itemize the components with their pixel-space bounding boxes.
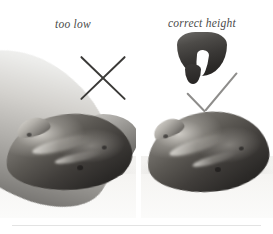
footer-divider [12, 225, 261, 226]
loaf-body [143, 106, 273, 198]
caption-too-low: too low [55, 18, 91, 30]
panel-too-low [0, 30, 136, 218]
bread-loaf-left [4, 110, 135, 195]
bread-loaf-right [143, 106, 273, 198]
panel-correct-height [141, 30, 273, 218]
x-mark-icon [80, 55, 126, 101]
figure-bread-scoring-comparison: too low correct height [0, 0, 273, 234]
check-mark-icon [188, 72, 238, 112]
caption-correct-height: correct height [168, 17, 236, 29]
